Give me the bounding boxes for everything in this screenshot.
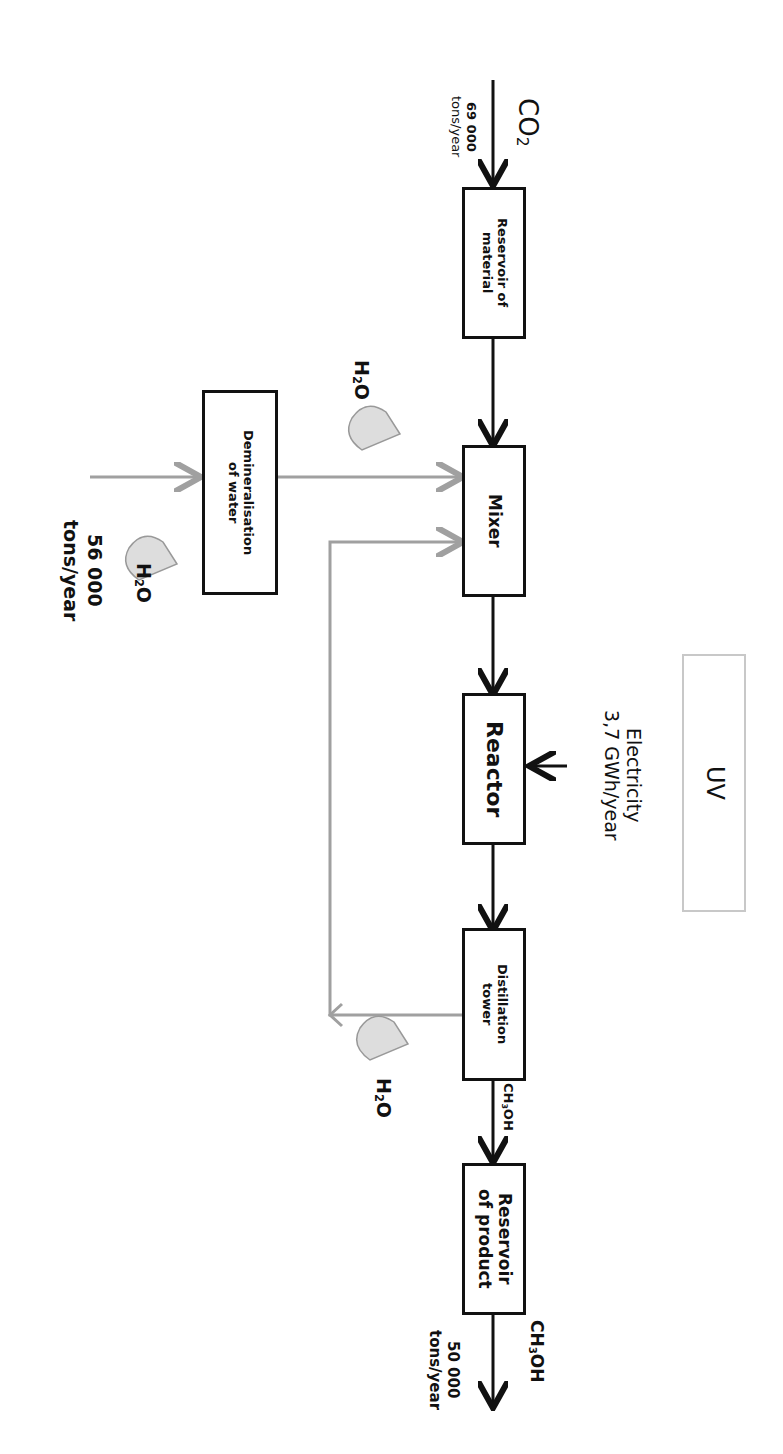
water-drop-icon	[349, 406, 400, 450]
reactor-label: Reactor	[481, 721, 506, 817]
mixer-box: Mixer	[462, 445, 526, 597]
water-recycle-arrow	[330, 542, 463, 1015]
water-input-label: H2O	[132, 563, 154, 603]
distillation-tower-label: Distillation tower	[479, 964, 509, 1044]
water-recycle-label: H2O	[372, 1078, 394, 1118]
ch3oh-output-amount: 50 000 tons/year	[426, 1330, 461, 1410]
demineralisation-label: Demineralisation of water	[225, 430, 255, 555]
reactor-box: Reactor	[462, 693, 526, 845]
ch3oh-mid-label: CH3OH	[499, 1083, 515, 1131]
uv-label: UV	[700, 766, 728, 800]
uv-box: UV	[682, 654, 746, 912]
water-drop-icon	[357, 1016, 408, 1060]
reservoir-of-material-box: Reservoir of material	[462, 187, 526, 339]
demineralisation-box: Demineralisation of water	[202, 390, 278, 595]
reservoir-of-product-box: Reservoir of product	[462, 1163, 526, 1315]
distillation-tower-box: Distillation tower	[462, 928, 526, 1081]
co2-amount: 69 000 tons/year	[448, 96, 478, 157]
water-mixer-label: H2O	[350, 360, 372, 400]
reservoir-of-material-label: Reservoir of material	[479, 218, 509, 307]
water-input-amount: 56 000 tons/year	[58, 520, 106, 621]
reservoir-of-product-label: Reservoir of product	[474, 1189, 513, 1289]
ch3oh-output-label: CH3OH	[526, 1320, 546, 1383]
electricity-label: Electricity 3,7 GWh/year	[600, 710, 644, 841]
mixer-label: Mixer	[484, 494, 504, 548]
flow-connectors	[0, 0, 783, 1454]
co2-label: CO2	[512, 98, 542, 147]
